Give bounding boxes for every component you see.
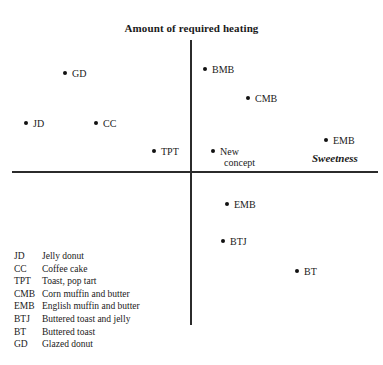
- data-point-cmb: CMB: [246, 93, 277, 104]
- y-axis-title-text: Amount of required heating: [125, 22, 259, 34]
- point-marker-icon: [324, 138, 328, 142]
- data-point-cc: CC: [94, 118, 116, 129]
- horizontal-axis-line: [12, 171, 378, 173]
- data-point-emb: EMB: [324, 135, 355, 146]
- data-point-tpt: TPT: [152, 146, 179, 157]
- data-point-label: BMB: [203, 64, 234, 75]
- legend-item: BTButtered toast: [14, 326, 140, 339]
- y-axis-title: Amount of required heating: [0, 22, 383, 34]
- point-marker-icon: [203, 67, 207, 71]
- legend-description: Coffee cake: [42, 263, 87, 276]
- point-marker-icon: [246, 96, 250, 100]
- legend-item: EMBEnglish muffin and butter: [14, 300, 140, 313]
- legend-abbreviation: CMB: [14, 288, 42, 301]
- legend-description: Buttered toast and jelly: [42, 313, 130, 326]
- data-point-label: EMB: [225, 199, 256, 210]
- legend-description: Glazed donut: [42, 338, 93, 351]
- point-marker-icon: [24, 121, 28, 125]
- legend-abbreviation: GD: [14, 338, 42, 351]
- legend-abbreviation: TPT: [14, 275, 42, 288]
- legend-description: English muffin and butter: [42, 300, 140, 313]
- point-marker-icon: [152, 149, 156, 153]
- legend-item: JDJelly donut: [14, 250, 140, 263]
- data-point-bmb: BMB: [203, 64, 234, 75]
- legend-item: GDGlazed donut: [14, 338, 140, 351]
- perceptual-map-chart: Amount of required heating Sweetness GDJ…: [0, 0, 383, 365]
- legend-description: Buttered toast: [42, 326, 95, 339]
- legend-abbreviation: JD: [14, 250, 42, 263]
- x-axis-title: Sweetness: [312, 152, 358, 164]
- data-point-label: New: [211, 146, 239, 157]
- data-point-label-line2: concept: [211, 157, 255, 168]
- point-marker-icon: [63, 71, 67, 75]
- point-marker-icon: [94, 121, 98, 125]
- legend-abbreviation: BTJ: [14, 313, 42, 326]
- legend-abbreviation: BT: [14, 326, 42, 339]
- data-point-label: CMB: [246, 93, 277, 104]
- vertical-axis-line: [190, 40, 192, 325]
- data-point-new-concept: Newconcept: [211, 146, 255, 168]
- legend: JDJelly donutCCCoffee cakeTPTToast, pop …: [14, 250, 140, 351]
- data-point-btj: BTJ: [221, 236, 247, 247]
- legend-item: CCCoffee cake: [14, 263, 140, 276]
- legend-item: TPTToast, pop tart: [14, 275, 140, 288]
- data-point-jd: JD: [24, 118, 44, 129]
- legend-description: Toast, pop tart: [42, 275, 96, 288]
- legend-item: BTJButtered toast and jelly: [14, 313, 140, 326]
- point-marker-icon: [211, 149, 215, 153]
- point-marker-icon: [295, 269, 299, 273]
- data-point-gd: GD: [63, 68, 86, 79]
- legend-description: Jelly donut: [42, 250, 84, 263]
- point-marker-icon: [225, 202, 229, 206]
- legend-abbreviation: CC: [14, 263, 42, 276]
- point-marker-icon: [221, 239, 225, 243]
- legend-item: CMBCorn muffin and butter: [14, 288, 140, 301]
- legend-abbreviation: EMB: [14, 300, 42, 313]
- data-point-label: TPT: [152, 146, 179, 157]
- data-point-emb: EMB: [225, 199, 256, 210]
- legend-description: Corn muffin and butter: [42, 288, 130, 301]
- data-point-label: EMB: [324, 135, 355, 146]
- data-point-bt: BT: [295, 266, 317, 277]
